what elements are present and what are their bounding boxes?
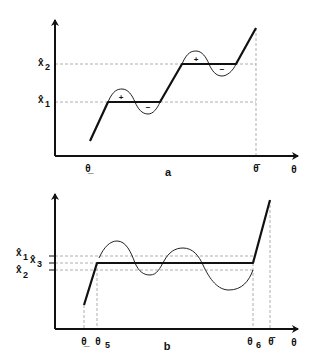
x-label-theta6-b: θ 6 — [247, 336, 261, 350]
y-label-x2-a: x̂ 2 — [38, 57, 50, 72]
svg-text:x̂: x̂ — [38, 94, 44, 105]
x-label-theta-upper-b: θ̄ — [268, 336, 275, 347]
x-axis-label-b: θ — [291, 337, 296, 348]
x-label-theta5-b: θ 5 — [95, 336, 110, 350]
y-label-x1-a: x̂ 1 — [38, 94, 50, 109]
svg-text:x̂: x̂ — [30, 254, 36, 265]
diagram-canvas: + − + − x̂ 1 x̂ 2 θ̲ θ̄ θ a — [0, 0, 315, 364]
svg-text:5: 5 — [105, 340, 110, 350]
x-label-theta-lower-b: θ̲ — [81, 336, 89, 347]
svg-text:2: 2 — [23, 270, 28, 280]
oscillation-curve-b — [99, 241, 253, 290]
svg-text:θ: θ — [247, 336, 252, 347]
x-axis-label-a: θ — [291, 164, 296, 175]
sign-plus-2: + — [194, 55, 199, 64]
y-label-x2-b: x̂ 2 — [16, 264, 28, 280]
panel-b: x̂ 1 x̂ 3 x̂ 2 θ̲ θ 5 θ 6 θ̄ θ b — [16, 194, 298, 352]
policy-line-b — [84, 200, 270, 305]
svg-text:x̂: x̂ — [16, 247, 22, 258]
svg-text:3: 3 — [37, 259, 42, 269]
x-label-theta-lower-a: θ̲ — [85, 163, 93, 174]
svg-text:6: 6 — [256, 340, 261, 350]
panel-a: + − + − x̂ 1 x̂ 2 θ̲ θ̄ θ a — [38, 20, 298, 178]
svg-text:θ: θ — [95, 336, 100, 347]
svg-text:x̂: x̂ — [16, 264, 22, 275]
sign-plus-1: + — [119, 93, 124, 102]
policy-line-a — [90, 28, 256, 141]
caption-b: b — [164, 340, 171, 352]
svg-text:1: 1 — [23, 252, 28, 262]
sign-minus-2: − — [220, 65, 225, 74]
svg-text:1: 1 — [45, 99, 50, 109]
caption-a: a — [165, 166, 172, 178]
y-label-x1-b: x̂ 1 — [16, 247, 28, 262]
svg-text:x̂: x̂ — [38, 57, 44, 68]
svg-text:2: 2 — [45, 62, 50, 72]
sign-minus-1: − — [146, 103, 151, 112]
x-label-theta-upper-a: θ̄ — [253, 163, 260, 174]
y-label-x3-b: x̂ 3 — [30, 254, 42, 269]
